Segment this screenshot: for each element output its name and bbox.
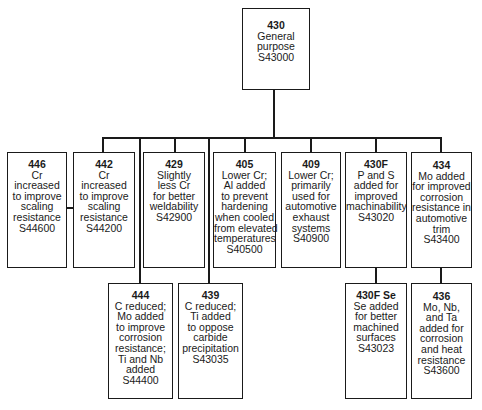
node-429: 429 Slightly less Cr for better weldabil… xyxy=(143,152,205,268)
node-430f: 430F P and S added for improved machinab… xyxy=(345,152,407,268)
connector-root-down xyxy=(273,89,275,139)
node-text: automotive xyxy=(412,213,471,224)
node-text: S43020 xyxy=(346,212,406,223)
node-text: S43035 xyxy=(179,354,242,365)
node-text: resistance xyxy=(74,212,134,223)
node-446: 446 Cr increased to improve scaling resi… xyxy=(7,152,67,268)
node-444: 444 C reduced; Mo added to improve corro… xyxy=(108,283,173,399)
node-text: S43023 xyxy=(346,343,406,354)
connector-main-bus xyxy=(102,137,441,139)
node-code: 434 xyxy=(412,160,471,171)
connector-434 xyxy=(440,137,442,153)
node-442: 442 Cr increased to improve scaling resi… xyxy=(73,152,135,268)
node-436: 436 Mo, Nb, and Ta added for corrosion a… xyxy=(411,283,472,399)
node-409: 409 Lower Cr; primarily used for automot… xyxy=(281,152,341,268)
node-text: S44600 xyxy=(8,223,66,234)
node-430: 430 General purpose S43000 xyxy=(242,8,310,90)
node-text: precipitation xyxy=(179,343,242,354)
connector-405 xyxy=(244,137,246,153)
node-text: resistance; xyxy=(109,343,172,354)
node-code: 436 xyxy=(412,291,471,302)
node-code: 429 xyxy=(144,159,204,170)
node-text: S40900 xyxy=(282,233,340,244)
connector-409 xyxy=(310,137,312,153)
node-code: 409 xyxy=(282,159,340,170)
node-code: 405 xyxy=(214,159,275,170)
connector-442 xyxy=(102,137,104,153)
node-code: 446 xyxy=(8,159,66,170)
node-text: resistance xyxy=(8,212,66,223)
node-text: S40500 xyxy=(214,244,275,255)
node-text: S42900 xyxy=(144,212,204,223)
connector-434-436 xyxy=(440,267,442,284)
node-code: 430F Se xyxy=(346,290,406,301)
connector-444-long xyxy=(139,137,141,284)
node-434: 434 Mo added for improved corrosion resi… xyxy=(411,152,472,268)
node-code: 430F xyxy=(346,159,406,170)
node-code: 439 xyxy=(179,290,242,301)
connector-430f-430fse xyxy=(375,267,377,284)
node-text: S44400 xyxy=(109,375,172,386)
node-text: S43600 xyxy=(412,365,471,376)
connector-439-long xyxy=(208,137,210,284)
node-code: 442 xyxy=(74,159,134,170)
connector-430f xyxy=(375,137,377,153)
node-text: S44200 xyxy=(74,223,134,234)
node-text: S43400 xyxy=(412,234,471,245)
node-code: 444 xyxy=(109,290,172,301)
node-439: 439 C reduced; Ti added to oppose carbid… xyxy=(178,283,243,399)
node-text: S43000 xyxy=(243,52,309,63)
connector-429 xyxy=(174,137,176,153)
node-text: exhaust xyxy=(282,212,340,223)
node-code: 430 xyxy=(243,20,309,31)
node-text: when cooled xyxy=(214,212,275,223)
node-430f-se: 430F Se Se added for better machined sur… xyxy=(345,283,407,399)
node-text: and heat xyxy=(412,344,471,355)
node-405: 405 Lower Cr; Al added to prevent harden… xyxy=(213,152,276,268)
